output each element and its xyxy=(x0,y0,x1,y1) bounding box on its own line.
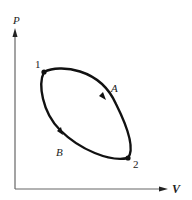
point-2-label: 2 xyxy=(133,158,139,170)
y-axis-label: P xyxy=(12,14,20,26)
path-b-label: B xyxy=(56,146,63,158)
x-axis-arrow-icon xyxy=(159,187,168,192)
point-2-dot xyxy=(125,155,130,160)
x-axis-label: V xyxy=(172,182,181,196)
pv-diagram: P V 1 2 A B xyxy=(0,0,192,200)
path-a-label: A xyxy=(110,82,118,94)
y-axis-arrow-icon xyxy=(13,28,18,37)
point-1-label: 1 xyxy=(35,58,41,70)
path-a-arrow-icon xyxy=(99,92,106,100)
point-1-dot xyxy=(41,69,46,74)
